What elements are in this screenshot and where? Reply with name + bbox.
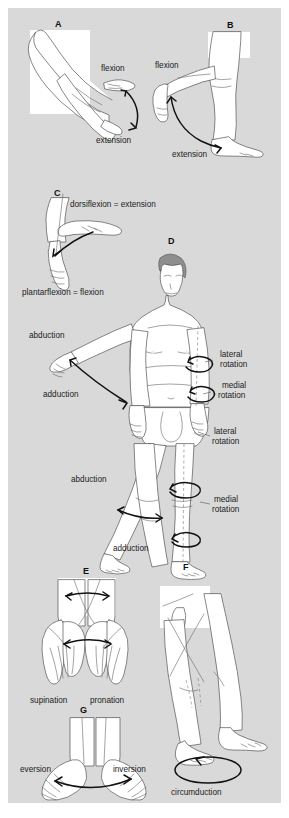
label-e-supination: supination — [30, 696, 68, 705]
panel-a-group: A flexion extension — [28, 19, 137, 145]
panel-e-right-hand — [105, 620, 129, 684]
label-a-extension: extension — [96, 136, 131, 145]
panel-g-right-leg — [96, 718, 120, 766]
panel-f-standing-foot — [219, 728, 268, 751]
panel-letter-d: D — [168, 236, 175, 246]
label-c-plantarflexion: plantarflexion = flexion — [22, 288, 104, 297]
label-d-leg-lateral-line2: rotation — [212, 437, 240, 446]
panel-e-group: E supination pronation — [30, 566, 128, 705]
panel-d-right-foot — [171, 562, 206, 580]
panel-a-arrowhead-bottom — [129, 123, 136, 130]
label-f-circumduction: circumduction — [171, 788, 222, 797]
label-a-flexion: flexion — [101, 64, 125, 73]
panel-c-foot-plantarflexed — [48, 241, 69, 290]
panel-a-arrowhead-top — [121, 90, 126, 96]
panel-f-standing-leg — [204, 594, 242, 732]
panel-b-standing-leg — [209, 32, 241, 140]
panel-letter-c: C — [54, 188, 61, 198]
label-g-inversion: inversion — [113, 765, 146, 774]
panel-d-face — [160, 264, 183, 296]
panel-d-nipple-right — [185, 350, 188, 353]
panel-b-flexed-lower-leg — [164, 66, 215, 97]
panel-g-left-leg — [70, 718, 94, 766]
panel-a-hand-flexed — [104, 80, 135, 91]
panel-d-left-arm-abducted — [71, 324, 136, 365]
label-d-leg-abduction: abduction — [71, 475, 107, 484]
joint-movement-illustration: A flexion extension B flexion extension — [8, 8, 281, 803]
label-d-leg-lateral-line1: lateral — [214, 427, 236, 436]
panel-f-swinging-leg — [164, 620, 201, 747]
label-d-arm-abduction: abduction — [29, 331, 65, 340]
panel-letter-g: G — [80, 705, 87, 715]
anatomy-figure-panel: A flexion extension B flexion extension — [8, 8, 281, 803]
label-d-arm-lateral-line2: rotation — [220, 360, 248, 369]
label-d-leg-medial-line2: rotation — [212, 505, 240, 514]
panel-letter-b: B — [227, 20, 234, 30]
label-g-eversion: eversion — [20, 765, 51, 774]
panel-e-right-forearm — [88, 580, 115, 626]
label-d-arm-medial-line1: medial — [222, 381, 246, 390]
panel-b-group: B flexion extension — [153, 20, 263, 159]
label-b-flexion: flexion — [155, 61, 179, 70]
label-d-leg-adduction: adduction — [113, 544, 149, 553]
panel-letter-f: F — [183, 562, 189, 572]
label-e-pronation: pronation — [90, 696, 125, 705]
panel-c-group: C dorsiflexion = extension plantarflexio… — [22, 188, 156, 297]
label-d-leg-medial-line1: medial — [214, 495, 238, 504]
panel-g-group: G eversion inversion — [20, 705, 146, 800]
label-d-arm-adduction: adduction — [43, 390, 79, 399]
panel-d-nipple-left — [151, 350, 154, 353]
label-b-extension: extension — [172, 150, 207, 159]
panel-e-left-forearm — [58, 580, 85, 626]
label-d-arm-medial-line2: rotation — [218, 391, 246, 400]
panel-letter-a: A — [55, 19, 62, 29]
panel-letter-e: E — [83, 566, 89, 576]
panel-a-motion-arrow — [126, 91, 138, 127]
panel-e-left-hand — [42, 620, 66, 684]
panel-d-left-hand-adducted — [129, 406, 146, 438]
label-c-dorsiflexion: dorsiflexion = extension — [70, 200, 156, 209]
panel-f-group: F circumduction — [160, 562, 267, 797]
label-d-arm-lateral-line1: lateral — [220, 350, 242, 359]
panel-b-flexed-foot — [153, 84, 168, 122]
